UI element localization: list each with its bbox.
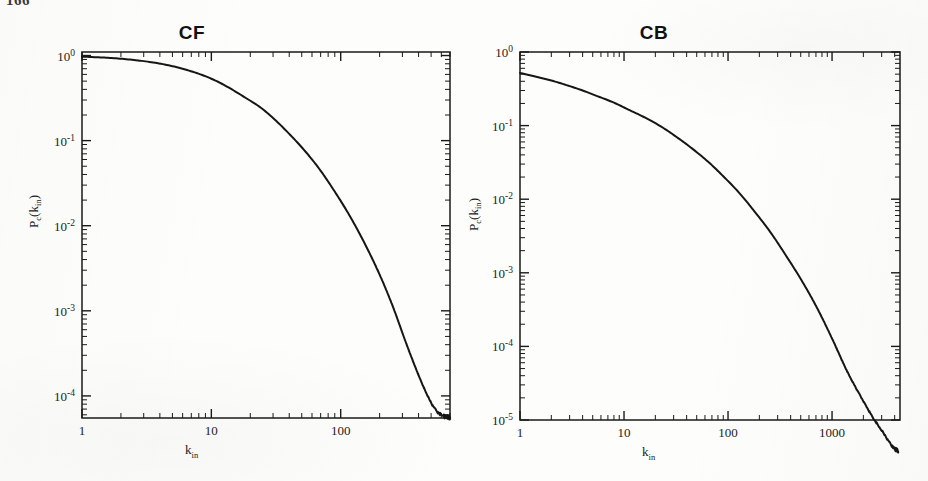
panel-cf: CF Pc(kin) kin 11010010010‐110‐210‐310‐4 <box>0 0 464 481</box>
x-tick-label: 10 <box>205 423 218 438</box>
figure-root: 166 CF Pc(kin) kin 11010010010‐110‐210‐3… <box>0 0 928 481</box>
panel-cb: CB Pc(kin) kin 110100100010010‐110‐210‐3… <box>464 0 928 481</box>
y-tick-labels: 10010‐110‐210‐310‐4 <box>54 48 75 404</box>
y-tick-label: 10‐2 <box>54 218 75 234</box>
y-tick-label: 10‐3 <box>54 303 75 319</box>
y-tick-label: 10‐5 <box>492 412 513 428</box>
y-tick-label: 100 <box>495 44 513 60</box>
y-tick-label: 10‐4 <box>54 388 75 404</box>
y-tick-labels: 10010‐110‐210‐310‐410‐5 <box>492 44 513 428</box>
y-tick-label: 10‐4 <box>492 338 513 354</box>
data-curve <box>82 57 450 420</box>
y-tick-label: 100 <box>57 48 75 64</box>
data-curve <box>520 73 898 453</box>
x-tick-label: 100 <box>718 425 738 440</box>
y-tick-label: 10‐1 <box>492 118 513 134</box>
plot-frame <box>82 52 450 418</box>
x-tick-label: 1 <box>79 423 86 438</box>
x-tick-label: 10 <box>618 425 631 440</box>
x-tick-label: 100 <box>331 423 351 438</box>
x-tick-label: 1 <box>517 425 524 440</box>
x-tick-labels: 110100 <box>79 423 351 438</box>
x-tick-label: 1000 <box>819 425 845 440</box>
x-tick-labels: 1101001000 <box>517 425 845 440</box>
panel-cf-plot: 11010010010‐110‐210‐310‐4 <box>0 0 464 481</box>
axis-ticks <box>82 52 450 418</box>
y-tick-label: 10‐1 <box>54 133 75 149</box>
panel-cb-plot: 110100100010010‐110‐210‐310‐410‐5 <box>464 0 928 481</box>
y-tick-label: 10‐3 <box>492 265 513 281</box>
y-tick-label: 10‐2 <box>492 191 513 207</box>
